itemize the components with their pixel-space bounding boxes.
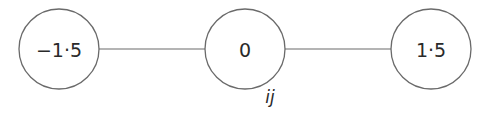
ij-caption: ij (265, 87, 275, 107)
node-center-label: 0 (239, 39, 251, 61)
node-center: 0 (205, 9, 285, 89)
node-right: 1·5 (391, 9, 471, 89)
node-right-label: 1·5 (416, 39, 446, 61)
node-left: −1·5 (19, 9, 99, 89)
node-left-label: −1·5 (36, 39, 82, 61)
node-chain-diagram: −1·5 0 1·5 ij (0, 0, 478, 113)
